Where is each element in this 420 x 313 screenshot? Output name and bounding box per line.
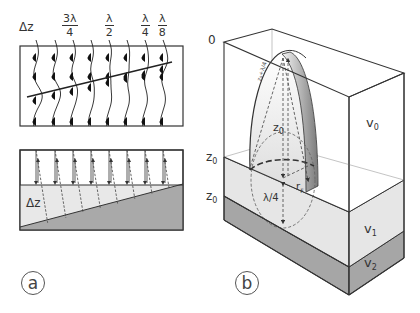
v1-label: v1 <box>364 222 377 238</box>
v0-label: v0 <box>366 116 379 132</box>
lambda-quarter-label: λ/4 <box>263 193 279 203</box>
panel-a-wavelet-traces <box>20 40 183 126</box>
wavelength-label-4: λ8 <box>158 13 167 38</box>
panel-a-tag: a <box>21 271 45 295</box>
panel-b-tag: b <box>235 271 259 295</box>
z0-inner-label: z0 <box>273 122 284 136</box>
fresnel-radius-label: rF <box>296 182 304 194</box>
wavelet-box <box>20 46 183 126</box>
panel-b-fresnel-block <box>224 29 404 295</box>
wavelength-label-0: Δz <box>19 21 34 33</box>
panel-a-wedge-model <box>20 150 183 230</box>
panel-b-letter: b <box>242 275 253 292</box>
wavelength-label-2: λ2 <box>105 13 114 38</box>
wavelength-label-3: λ4 <box>141 13 150 38</box>
z0-upper-label: z0 <box>206 151 217 166</box>
depth-zero-label: 0 <box>208 34 216 46</box>
panel-a-letter: a <box>28 275 38 292</box>
wedge-thickness-label: Δz <box>26 197 41 209</box>
v2-label: v2 <box>364 256 377 272</box>
wavelength-label-1: 3λ4 <box>62 13 78 38</box>
z0-lower-label: z0 <box>206 190 217 205</box>
